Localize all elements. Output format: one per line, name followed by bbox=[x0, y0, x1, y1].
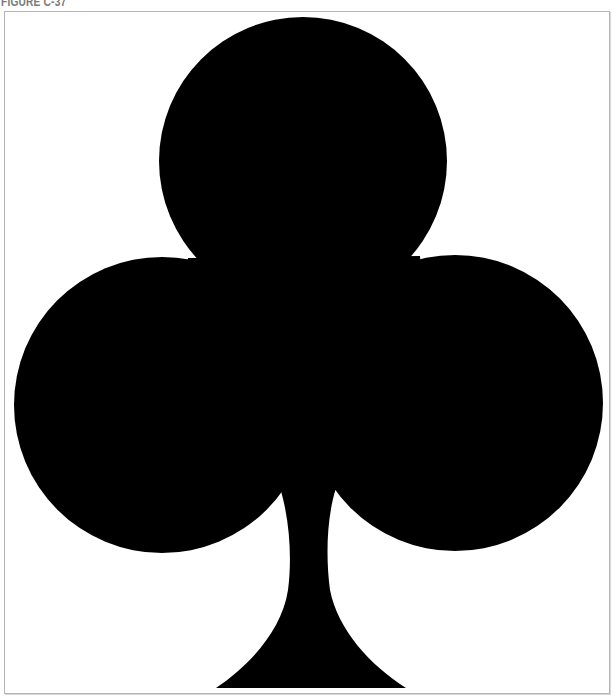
club-suit-icon bbox=[0, 0, 614, 696]
club-shape bbox=[14, 17, 603, 688]
